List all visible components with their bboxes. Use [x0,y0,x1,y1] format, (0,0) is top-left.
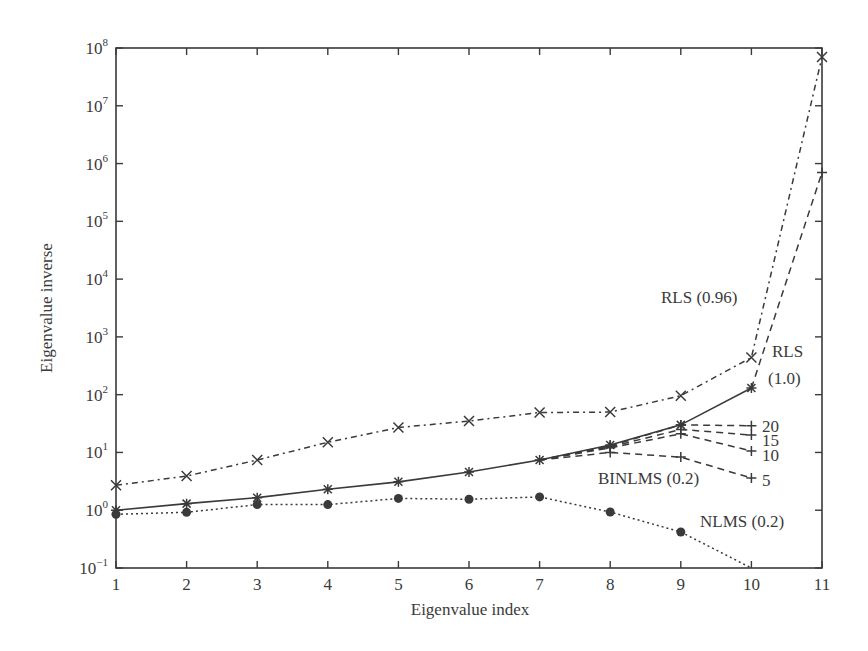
y-tick-label: 105 [86,209,109,231]
series-line [540,425,752,460]
annotation-label: NLMS (0.2) [700,512,784,531]
plus-marker [817,168,827,178]
series-line [540,429,752,460]
annotation-label: 5 [762,471,771,490]
annotation-label: RLS (0.96) [661,288,738,307]
x-tick-label: 2 [182,575,191,594]
dot-marker [394,494,403,503]
x-tick-label: 3 [253,575,262,594]
x-marker [676,391,686,401]
dot-marker [253,500,262,509]
series-line [116,388,751,510]
y-axis-title: Eigenvalue inverse [37,243,56,373]
y-tick-label: 100 [86,498,109,520]
eigenvalue-chart: 1234567891011108107106105104103102101100… [0,0,868,651]
x-tick-label: 9 [677,575,686,594]
plus-marker [676,452,686,462]
plot-border [116,48,822,568]
x-tick-label: 6 [465,575,474,594]
series-annotations: RLS (0.96)RLS(1.0)2015105BINLMS (0.2)NLM… [598,288,803,531]
dot-marker [606,508,615,517]
plot-frame [116,48,822,568]
x-tick-label: 10 [743,575,760,594]
y-tick-label: 107 [86,94,109,116]
asterisk-marker [323,484,333,494]
chart-svg: 1234567891011108107106105104103102101100… [0,0,868,651]
dot-marker [535,492,544,501]
x-tick-label: 4 [324,575,333,594]
annotation-label: RLS [772,342,803,361]
x-tick-label: 5 [394,575,403,594]
y-tick-label: 106 [86,152,109,174]
axis-ticks: 1234567891011108107106105104103102101100… [79,36,830,594]
plus-marker [746,473,756,483]
dot-marker [182,508,191,517]
y-tick-label: 104 [86,267,109,289]
y-tick-label: 101 [86,440,109,462]
y-tick-label: 108 [86,36,109,58]
y-tick-label: 10−1 [79,556,108,578]
y-tick-label: 103 [86,325,109,347]
data-series [111,52,827,568]
asterisk-marker [182,499,192,509]
annotation-label: 10 [762,446,779,465]
x-tick-label: 11 [814,575,830,594]
asterisk-marker [464,467,474,477]
series-line [116,497,751,568]
annotation-label: (1.0) [768,369,801,388]
x-marker [252,455,262,465]
plus-marker [746,430,756,440]
series-rls-0-96- [111,52,827,490]
x-marker [746,352,756,362]
x-axis-title: Eigenvalue index [411,600,530,619]
dot-marker [676,527,685,536]
series-nlms-0-2- [112,492,752,568]
dot-marker [465,495,474,504]
asterisk-marker [393,477,403,487]
dot-marker [112,510,121,519]
dot-marker [323,500,332,509]
x-tick-label: 8 [606,575,615,594]
annotation-label: BINLMS (0.2) [598,469,699,488]
plus-marker [746,421,756,431]
x-tick-label: 1 [112,575,121,594]
x-tick-label: 7 [535,575,544,594]
series-rls-1-0- [111,383,756,515]
y-tick-label: 102 [86,383,109,405]
plus-marker [746,446,756,456]
